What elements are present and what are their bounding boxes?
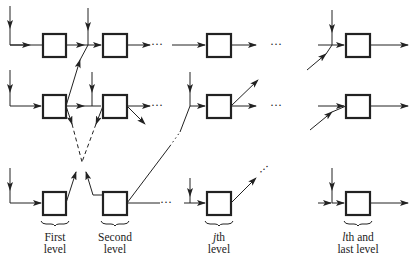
box-r1-c2 — [103, 34, 127, 57]
box-r1-c1 — [43, 34, 66, 57]
box-r2-cl — [346, 95, 370, 118]
box-r3-c1 — [43, 192, 66, 215]
box-r2-cj — [207, 95, 231, 118]
label-last-level: lth and last level — [318, 231, 398, 255]
feed-line — [10, 28, 29, 45]
box-r1-cl — [346, 34, 370, 57]
ellipsis: ··· — [270, 37, 282, 51]
ellipsis: ··· — [270, 98, 282, 112]
ellipsis: ··· — [151, 98, 163, 112]
diag-in-arrow — [307, 54, 326, 70]
box-r3-cl — [346, 192, 370, 215]
ellipsis: ··· — [255, 160, 273, 178]
brace-last — [344, 221, 372, 226]
brace-jth — [205, 221, 233, 226]
label-jth-level: jth level — [179, 231, 259, 255]
brace-second — [101, 221, 129, 226]
box-r3-cj — [207, 192, 231, 215]
box-r2-c1 — [43, 95, 66, 118]
cascade-diagram: ··· ··· ··· ··· ··· ··· — [0, 0, 416, 261]
box-r2-c2 — [103, 95, 127, 118]
box-r1-cj — [207, 34, 231, 57]
label-second-level: Second level — [75, 231, 155, 255]
cross-links — [66, 45, 190, 203]
ellipsis: ··· — [151, 37, 163, 51]
box-r3-c2 — [103, 192, 127, 215]
brace-first — [41, 221, 69, 226]
ellipsis: ··· — [160, 195, 172, 209]
